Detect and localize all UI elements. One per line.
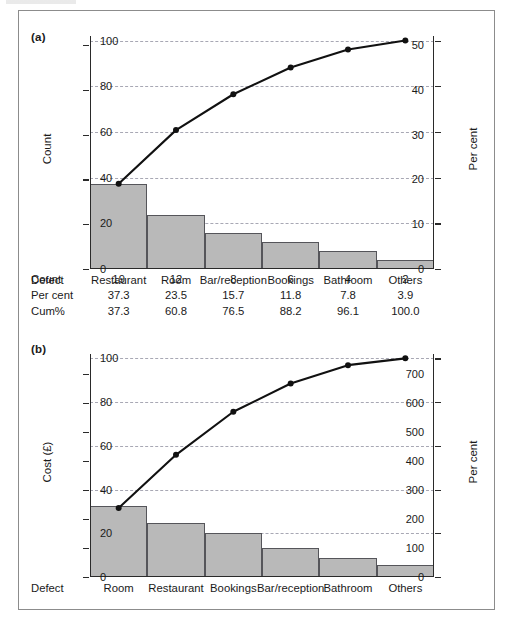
table-row-label: Cum% [31, 305, 65, 317]
y2-tick [435, 178, 441, 179]
y-tick-label: 500 [384, 426, 424, 438]
data-point-marker [173, 452, 179, 458]
x-category-label: Bookings [267, 274, 313, 286]
figure-frame: (a) 01020304050020406080100 Count Per ce… [18, 10, 495, 610]
y2-tick [435, 269, 441, 270]
x-category-label: Room [104, 582, 134, 594]
x-category-label: Restaurant [91, 274, 146, 286]
table-cell: 37.3 [108, 289, 130, 301]
y-tick-label: 20 [384, 173, 424, 185]
y-tick-label: 100 [384, 542, 424, 554]
y-tick [83, 135, 89, 136]
data-point-marker [116, 505, 122, 511]
y-tick-label: 200 [384, 513, 424, 525]
y-tick [83, 45, 89, 46]
x-axis-title: Defect [31, 274, 64, 286]
table-cell: 15.7 [222, 289, 244, 301]
pareto-chart-cost: 0100200300400500600700020406080100 [90, 354, 434, 577]
y-tick [83, 519, 89, 520]
y2-tick-label: 40 [100, 484, 112, 496]
y2-tick [435, 533, 441, 534]
cumulative-percent-line [90, 354, 434, 577]
y2-tick [435, 132, 441, 133]
y-tick [83, 224, 89, 225]
y-tick [83, 461, 89, 462]
y2-axis-title-a: Per cent [467, 119, 479, 179]
x-category-label: Room [161, 274, 191, 286]
x-category-label: Bar/reception [200, 274, 267, 286]
table-cell: 88.2 [280, 305, 302, 317]
cumulative-percent-line [90, 36, 434, 269]
table-cell: 11.8 [280, 289, 301, 301]
cropped-header-artifact [6, 0, 76, 8]
y2-tick [435, 402, 441, 403]
y-axis-left-a [90, 36, 91, 269]
y-tick-label: 50 [384, 39, 424, 51]
x-axis-b [90, 576, 434, 577]
y-tick-label: 700 [384, 368, 424, 380]
y-tick [83, 179, 89, 180]
y-tick [83, 432, 89, 433]
table-cell: 96.1 [337, 305, 359, 317]
data-point-marker [288, 381, 294, 387]
panel-b-label: (b) [31, 343, 46, 355]
y-axis-right-a [433, 36, 434, 269]
data-point-marker [345, 362, 351, 368]
y2-tick-label: 60 [100, 440, 112, 452]
pareto-chart-count: 01020304050020406080100 [90, 36, 434, 269]
data-point-marker [116, 181, 122, 187]
y2-tick-label: 80 [100, 396, 112, 408]
x-axis-a [90, 268, 434, 269]
y-tick-label: 400 [384, 455, 424, 467]
table-cell: 100.0 [391, 305, 419, 317]
x-axis-title: Defect [31, 582, 64, 594]
table-cell: 37.3 [108, 305, 130, 317]
y2-tick [435, 577, 441, 578]
y-axis-title-a: Count [41, 119, 53, 179]
table-cell: 3.9 [397, 289, 413, 301]
y2-tick-label: 60 [100, 126, 112, 138]
y2-tick-label: 100 [100, 352, 118, 364]
data-point-marker [230, 91, 236, 97]
y2-axis-title-b: Per cent [467, 432, 479, 492]
plot-area-a [90, 36, 434, 269]
y-tick [83, 490, 89, 491]
y2-tick-label: 80 [100, 80, 112, 92]
x-category-label: Others [388, 582, 422, 594]
data-point-marker [345, 46, 351, 52]
y-axis-title-b: Cost (£) [41, 426, 53, 498]
table-cell: 23.5 [165, 289, 187, 301]
panel-a-label: (a) [31, 31, 46, 43]
data-point-marker [173, 127, 179, 133]
table-cell: 76.5 [222, 305, 244, 317]
x-category-label: Bathroom [324, 582, 373, 594]
table-row-label: Per cent [31, 289, 73, 301]
y-tick [83, 403, 89, 404]
plot-area-b [90, 354, 434, 577]
y2-tick [435, 490, 441, 491]
data-point-marker [288, 65, 294, 71]
y2-tick [435, 358, 441, 359]
y-tick-label: 10 [384, 218, 424, 230]
y-tick [83, 374, 89, 375]
y2-tick-label: 20 [100, 217, 112, 229]
table-cell: 60.8 [165, 305, 187, 317]
y-tick [83, 269, 89, 270]
y2-tick [435, 446, 441, 447]
y2-tick-label: 20 [100, 527, 112, 539]
table-cell: 7.8 [340, 289, 356, 301]
data-point-marker [402, 355, 408, 361]
y-tick-label: 300 [384, 484, 424, 496]
x-category-label: Others [388, 274, 422, 286]
y2-tick [435, 223, 441, 224]
x-category-label: Bar/reception [257, 582, 324, 594]
y-tick-label: 30 [384, 129, 424, 141]
y-tick [83, 90, 89, 91]
y-tick-label: 600 [384, 397, 424, 409]
x-category-label: Bathroom [324, 274, 373, 286]
y2-tick [435, 41, 441, 42]
y2-tick-label: 40 [100, 172, 112, 184]
y-axis-left-b [90, 354, 91, 577]
y-tick [83, 548, 89, 549]
y2-tick [435, 86, 441, 87]
